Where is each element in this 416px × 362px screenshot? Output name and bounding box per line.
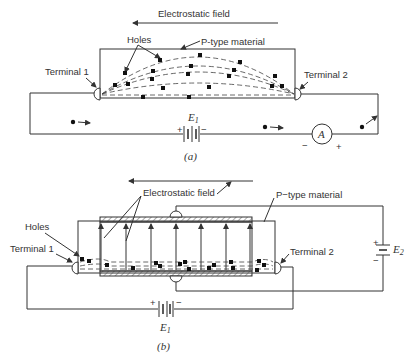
semiconductor-diagram: Electrostatic field Holes P-type materia…: [0, 0, 416, 362]
terminal2-pointer-b: [281, 254, 289, 263]
electron-arrow: [270, 127, 283, 128]
wire-left-a: [30, 93, 183, 134]
p-type-block-a: [100, 49, 295, 98]
electron: [263, 125, 267, 129]
flow-line: [102, 66, 294, 94]
field-label-a: Electrostatic field: [158, 8, 230, 19]
electron: [360, 125, 364, 129]
flow-line: [102, 83, 294, 94]
wire-gate-top: [176, 206, 383, 245]
figure-b: Electrostatic field P−type material: [10, 181, 404, 353]
terminal1-pointer-a: [86, 78, 96, 87]
ammeter-minus: −: [302, 140, 308, 151]
battery1-minus-b: −: [176, 297, 182, 308]
battery-e1-a: [184, 126, 199, 142]
field-label-b: Electrostatic field: [143, 187, 215, 198]
caption-a: (a): [184, 150, 197, 163]
caption-b: (b): [157, 340, 170, 353]
battery2-plus: +: [373, 237, 379, 248]
field-lines-b: [101, 224, 250, 270]
material-label-a: P-type material: [201, 36, 265, 47]
holes-a: [113, 53, 284, 99]
electron-arrow: [366, 116, 377, 124]
battery1-label-b: E1: [159, 321, 171, 335]
terminal1-bulb-b: [72, 262, 78, 274]
terminal1-label-b: Terminal 1: [10, 243, 54, 254]
gate-top-bulb: [170, 211, 182, 217]
battery-e1-b: [159, 301, 173, 317]
gate-bottom-bulb: [170, 276, 182, 282]
ammeter-label: A: [317, 128, 325, 140]
terminal1-pointer-b: [56, 254, 72, 262]
electron-arrow: [78, 122, 90, 123]
terminal2-bulb-a: [295, 88, 301, 100]
bottom-plate: [100, 271, 252, 276]
battery-plus-a: +: [177, 124, 183, 135]
holes-label-a: Holes: [127, 34, 152, 45]
material-pointer-a: [181, 41, 200, 49]
battery-label-a: E1: [187, 111, 199, 125]
terminal2-label-a: Terminal 2: [304, 69, 348, 80]
terminal1-bulb-a: [94, 88, 100, 100]
figure-a: Electrostatic field Holes P-type materia…: [30, 8, 378, 163]
electron: [71, 120, 75, 124]
material-pointer-b: [264, 198, 274, 222]
holes-label-b: Holes: [25, 221, 50, 232]
terminal1-label-a: Terminal 1: [45, 66, 89, 77]
field-slash-arrow-b: [217, 182, 231, 194]
holes-pointer-a2: [138, 45, 160, 58]
battery1-plus-b: +: [150, 297, 156, 308]
holes-b: [80, 257, 266, 272]
battery2-minus: −: [373, 255, 379, 266]
top-plate: [100, 217, 252, 222]
ammeter-plus: +: [336, 141, 342, 152]
terminal2-pointer-a: [300, 82, 308, 89]
terminal2-bulb-b: [275, 262, 281, 274]
battery2-label: E2: [392, 243, 404, 257]
material-label-b: P−type material: [276, 189, 342, 200]
wire-right-a: [301, 94, 378, 134]
terminal2-label-b: Terminal 2: [290, 246, 334, 257]
battery-minus-a: −: [201, 124, 207, 135]
